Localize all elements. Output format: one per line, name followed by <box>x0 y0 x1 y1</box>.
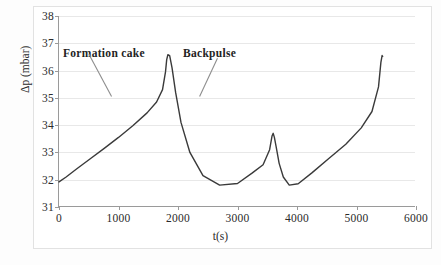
figure-container: Δp (mbar) t(s) Formation cake Backpulse … <box>0 0 441 265</box>
leader-line-backpulse <box>200 58 218 96</box>
annotation-leaders <box>0 0 441 265</box>
leader-line-formation-cake <box>89 54 112 96</box>
